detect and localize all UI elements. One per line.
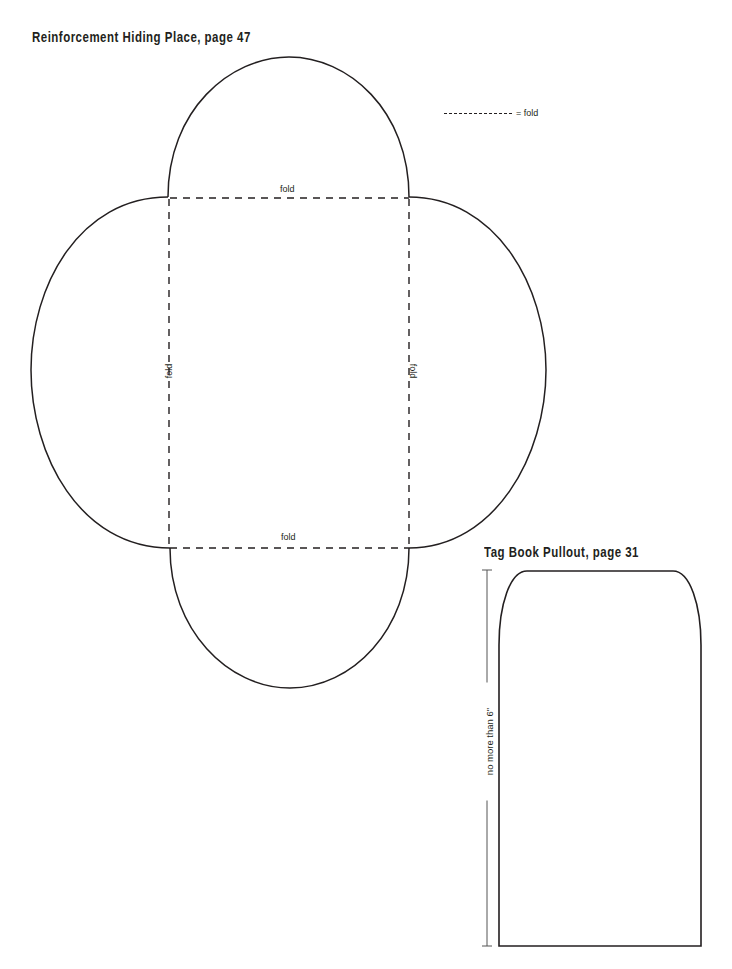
template-drawing — [0, 0, 732, 969]
top-lobe — [168, 57, 409, 197]
tag-book-pullout-title: Tag Book Pullout, page 31 — [484, 544, 639, 560]
bottom-lobe — [170, 548, 409, 688]
fold-lines — [169, 198, 409, 548]
reinforcement-template-shape — [31, 57, 546, 688]
left-lobe — [31, 197, 170, 548]
fold-label-top: fold — [280, 184, 295, 194]
fold-label-left: fold — [164, 364, 174, 379]
fold-label-bottom: fold — [281, 532, 296, 542]
tag-book-template-shape — [499, 571, 701, 946]
right-lobe — [409, 197, 546, 548]
dimension-label: no more than 6" — [484, 683, 495, 801]
fold-label-right: fold — [408, 364, 418, 379]
